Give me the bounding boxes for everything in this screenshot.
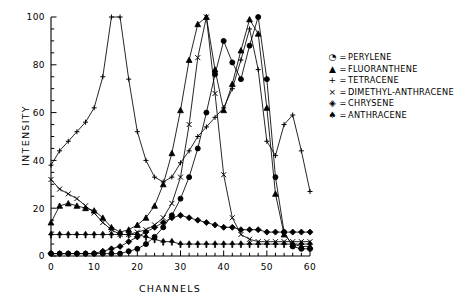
marker-diamond <box>255 227 261 233</box>
legend-marker-icon: ▲ <box>327 64 338 76</box>
marker-diamond <box>247 227 253 233</box>
x-axis-title: CHANNELS <box>0 283 340 294</box>
y-axis-tick-label: 20 <box>33 204 45 214</box>
legend-equals-sign: = <box>338 110 348 122</box>
marker-circle <box>195 146 200 151</box>
marker-plus <box>152 175 157 180</box>
marker-arrow <box>57 231 62 238</box>
marker-arrow <box>66 231 71 238</box>
data-series-group <box>48 14 313 257</box>
legend-equals-sign: = <box>338 87 348 99</box>
marker-triangle <box>169 150 175 155</box>
marker-triangle <box>247 16 253 21</box>
marker-plus <box>256 67 261 72</box>
y-axis-title: INTENSITY <box>20 66 31 206</box>
legend-marker-icon: + <box>327 75 338 87</box>
marker-plus <box>169 175 174 180</box>
legend-item-chrysene: ◈=CHRYSENE <box>327 98 454 110</box>
marker-arrow <box>204 241 209 248</box>
marker-diamond <box>229 224 235 230</box>
marker-arrow <box>247 241 252 248</box>
marker-circle <box>204 110 209 115</box>
marker-arrow <box>213 241 218 248</box>
marker-diamond <box>186 215 192 221</box>
marker-diamond <box>281 229 287 235</box>
marker-circle <box>178 196 183 201</box>
marker-cross <box>74 196 79 201</box>
marker-arrow <box>169 238 174 245</box>
marker-plus <box>135 129 140 134</box>
marker-diamond <box>264 229 270 235</box>
marker-circle <box>143 242 148 247</box>
marker-diamond <box>212 222 218 228</box>
legend-label: DIMETHYL-ANTHRACENE <box>348 87 454 99</box>
series-line <box>51 17 310 191</box>
marker-circle <box>126 249 131 254</box>
legend-label: TETRACENE <box>348 75 399 87</box>
legend-equals-sign: = <box>338 98 348 110</box>
x-axis-tick-label: 40 <box>218 262 230 272</box>
marker-diamond <box>126 239 132 245</box>
marker-cross <box>66 191 71 196</box>
marker-diamond <box>117 243 123 249</box>
marker-circle <box>135 246 140 251</box>
marker-cross <box>169 201 174 206</box>
x-axis-tick-label: 30 <box>174 262 186 272</box>
marker-diamond <box>298 229 304 235</box>
marker-plus <box>299 148 304 153</box>
marker-arrow <box>92 231 97 238</box>
x-axis-tick-label: 10 <box>88 262 100 272</box>
marker-arrow <box>83 231 88 238</box>
marker-diamond <box>178 212 184 218</box>
marker-arrow <box>161 238 166 245</box>
x-axis-tick-label: 50 <box>261 262 273 272</box>
chart-figure: 0204060801000102030405060 CHANNELS INTEN… <box>0 0 475 306</box>
marker-triangle <box>186 57 192 62</box>
marker-arrow <box>74 231 79 238</box>
legend-marker-icon: ♠ <box>327 110 338 122</box>
marker-arrow <box>238 241 243 248</box>
x-axis-tick-label: 0 <box>48 262 54 272</box>
legend-equals-sign: = <box>338 64 348 76</box>
marker-diamond <box>272 229 278 235</box>
legend-label: CHRYSENE <box>348 98 394 110</box>
y-axis-tick-label: 0 <box>39 251 45 261</box>
marker-circle <box>118 251 123 256</box>
marker-circle <box>256 15 261 20</box>
legend-item-dimethyl-anthracene: ×=DIMETHYL-ANTHRACENE <box>327 87 454 99</box>
legend-label: PERYLENE <box>348 52 392 64</box>
marker-diamond <box>195 217 201 223</box>
legend-item-anthracene: ♠=ANTHRACENE <box>327 110 454 122</box>
legend-item-perylene: ◔=PERYLENE <box>327 52 454 64</box>
marker-plus <box>161 179 166 184</box>
legend-item-tetracene: +=TETRACENE <box>327 75 454 87</box>
marker-arrow <box>109 231 114 238</box>
marker-triangle <box>152 203 158 208</box>
marker-arrow <box>195 241 200 248</box>
marker-plus <box>100 74 105 79</box>
legend-equals-sign: = <box>338 75 348 87</box>
y-axis-tick-label: 80 <box>33 60 45 70</box>
x-axis-tick-label: 60 <box>304 262 316 272</box>
marker-cross <box>57 187 62 192</box>
legend-marker-icon: ◈ <box>327 98 338 110</box>
y-axis-tick-label: 100 <box>27 12 45 22</box>
marker-arrow <box>187 241 192 248</box>
marker-circle <box>247 43 252 48</box>
marker-diamond <box>152 224 158 230</box>
marker-triangle <box>65 201 71 206</box>
marker-arrow <box>221 241 226 248</box>
marker-circle <box>230 60 235 65</box>
marker-plus <box>92 105 97 110</box>
spectrum-line-chart: 0204060801000102030405060 <box>0 0 475 306</box>
series-perylene <box>49 15 313 257</box>
marker-triangle <box>178 107 184 112</box>
marker-circle <box>221 38 226 43</box>
marker-diamond <box>290 229 296 235</box>
marker-plus <box>143 158 148 163</box>
marker-arrow <box>143 234 148 241</box>
marker-arrow <box>230 241 235 248</box>
marker-diamond <box>108 246 114 252</box>
chart-legend: ◔=PERYLENE▲=FLUORANTHENE+=TETRACENE×=DIM… <box>327 52 454 122</box>
marker-plus <box>264 139 269 144</box>
